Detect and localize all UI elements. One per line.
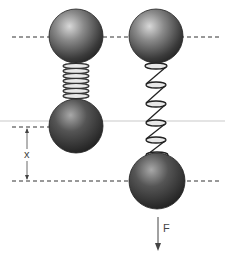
- displacement-label: x: [24, 148, 30, 160]
- spring-diagram: x F: [0, 0, 225, 257]
- right-spring: [145, 63, 168, 158]
- force-label: F: [163, 222, 170, 234]
- diagram-canvas: [0, 0, 225, 257]
- bottom-right-ball: [129, 153, 185, 209]
- top-right-ball: [129, 9, 183, 63]
- bottom-left-ball: [49, 99, 103, 153]
- left-spring: [63, 63, 89, 98]
- force-arrow: [155, 217, 161, 251]
- top-left-ball: [49, 9, 103, 63]
